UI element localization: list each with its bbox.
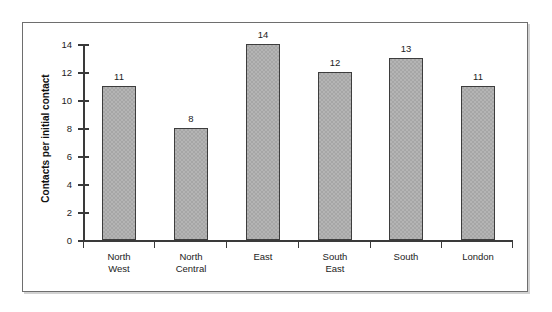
- bar-south-east[interactable]: [318, 72, 352, 240]
- x-axis-label-north-central: North Central: [161, 251, 221, 274]
- y-tick-label-0-wrap: 0: [48, 236, 72, 246]
- y-tick-mark-12: [78, 72, 89, 73]
- plot-area: Contacts per initial contact 14 12 10 8 …: [0, 0, 552, 312]
- bar-value-london: 11: [458, 72, 498, 82]
- bar-north-central[interactable]: [174, 128, 208, 240]
- x-axis-label-north-west-line2: West: [89, 263, 149, 275]
- y-tick-mark-10: [78, 100, 89, 101]
- x-tick-mark-0: [83, 241, 84, 248]
- x-tick-mark-6: [512, 241, 513, 248]
- x-axis-label-east-line1: East: [233, 251, 293, 263]
- x-tick-mark-1: [154, 241, 155, 248]
- x-axis-label-south-line1: South: [376, 251, 436, 263]
- y-tick-label-6-wrap: 6: [48, 152, 72, 162]
- x-axis-label-south-east-line2: East: [305, 263, 365, 275]
- bar-south[interactable]: [389, 58, 423, 240]
- y-tick-mark-2: [78, 212, 89, 213]
- x-tick-mark-3: [298, 241, 299, 248]
- y-tick-label-8: 8: [50, 124, 72, 134]
- x-axis-label-london: London: [448, 251, 508, 263]
- bar-value-south-east: 12: [315, 58, 355, 68]
- bar-value-east: 14: [243, 30, 283, 40]
- x-axis-label-south: South: [376, 251, 436, 263]
- x-tick-mark-5: [441, 241, 442, 248]
- y-tick-mark-4: [78, 184, 89, 185]
- y-tick-label-0: 0: [50, 236, 72, 246]
- y-tick-label-14: 14: [50, 40, 72, 50]
- bar-london[interactable]: [461, 86, 495, 240]
- bar-value-south: 13: [386, 44, 426, 54]
- y-tick-label-6: 6: [50, 152, 72, 162]
- y-tick-label-12: 12: [50, 68, 72, 78]
- y-tick-label-2: 2: [50, 208, 72, 218]
- chart-figure: Contacts per initial contact 14 12 10 8 …: [0, 0, 552, 312]
- x-axis-label-north-west-line1: North: [89, 251, 149, 263]
- x-axis-label-north-central-line2: Central: [161, 263, 221, 275]
- x-axis-label-east: East: [233, 251, 293, 263]
- y-tick-mark-8: [78, 128, 89, 129]
- bar-east[interactable]: [246, 44, 280, 240]
- x-axis-label-south-east: South East: [305, 251, 365, 274]
- x-axis-label-north-central-line1: North: [161, 251, 221, 263]
- y-tick-label-10: 10: [50, 96, 72, 106]
- y-tick-label-12-wrap: 12: [48, 68, 72, 78]
- x-axis-label-south-east-line1: South: [305, 251, 365, 263]
- x-tick-mark-2: [226, 241, 227, 248]
- bar-value-north-west: 11: [99, 72, 139, 82]
- y-tick-mark-14: [78, 44, 89, 45]
- y-tick-label-10-wrap: 10: [48, 96, 72, 106]
- x-tick-mark-4: [370, 241, 371, 248]
- y-tick-mark-6: [78, 156, 89, 157]
- y-tick-label-4: 4: [50, 180, 72, 190]
- x-axis-label-north-west: North West: [89, 251, 149, 274]
- y-tick-label-8-wrap: 8: [48, 124, 72, 134]
- x-axis-label-london-line1: London: [448, 251, 508, 263]
- bar-north-west[interactable]: [102, 86, 136, 240]
- bar-value-north-central: 8: [171, 114, 211, 124]
- y-tick-label-4-wrap: 4: [48, 180, 72, 190]
- y-tick-label-14-wrap: 14: [48, 40, 72, 50]
- y-tick-label-2-wrap: 2: [48, 208, 72, 218]
